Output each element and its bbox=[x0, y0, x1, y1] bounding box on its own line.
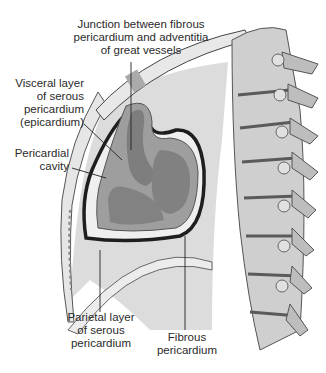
label-visceral-layer: Visceral layer of serous pericardium (ep… bbox=[0, 77, 84, 129]
thoracic-spine bbox=[232, 28, 318, 350]
pericardium-diagram: Junction between fibrous pericardium and… bbox=[0, 0, 326, 373]
label-fibrous-pericardium: Fibrous pericardium bbox=[152, 331, 222, 357]
label-pericardial-cavity: Pericardial cavity bbox=[0, 147, 69, 173]
label-junction: Junction between fibrous pericardium and… bbox=[66, 18, 216, 57]
label-parietal-layer: Parietal layer of serous pericardium bbox=[56, 311, 146, 350]
chamber-right bbox=[152, 150, 190, 214]
